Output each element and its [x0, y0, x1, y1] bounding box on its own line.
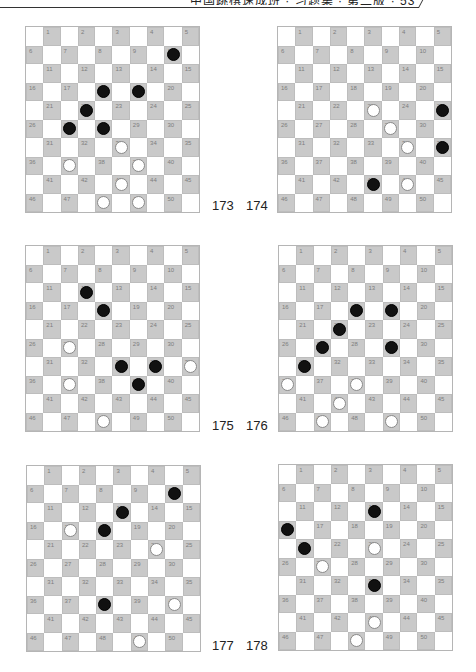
light-square: [348, 465, 365, 484]
light-square: [382, 138, 399, 157]
square-1: 1: [296, 465, 313, 484]
light-square: [364, 83, 381, 102]
square-number: 36: [281, 159, 288, 165]
light-square: [164, 64, 181, 83]
black-piece: [168, 487, 181, 500]
light-square: [26, 394, 43, 413]
square-45: 45: [435, 394, 452, 413]
square-number: 29: [134, 561, 141, 567]
square-number: 40: [167, 159, 174, 165]
square-number: 50: [168, 635, 175, 641]
square-46: 46: [278, 194, 295, 213]
square-44: 44: [400, 613, 417, 632]
square-number: 8: [350, 48, 353, 54]
square-50: 50: [164, 194, 181, 213]
square-14: 14: [148, 503, 165, 522]
light-square: [296, 376, 313, 395]
square-number: 45: [438, 396, 445, 402]
light-square: [331, 302, 348, 321]
square-number: 46: [282, 634, 289, 640]
white-piece: [384, 122, 397, 135]
square-13: 13: [364, 64, 381, 83]
light-square: [182, 339, 199, 358]
square-29: 29: [131, 559, 148, 578]
square-number: 50: [419, 196, 426, 202]
white-piece: [97, 196, 110, 209]
square-number: 17: [64, 85, 71, 91]
square-number: 5: [438, 248, 441, 254]
square-49: 49: [383, 632, 400, 651]
light-square: [26, 175, 43, 194]
square-number: 46: [30, 635, 37, 641]
square-number: 31: [298, 140, 305, 146]
square-30: 30: [164, 120, 181, 139]
light-square: [383, 539, 400, 558]
square-31: 31: [43, 138, 60, 157]
light-square: [182, 376, 199, 395]
square-number: 24: [402, 103, 409, 109]
square-26: 26: [27, 559, 44, 578]
square-40: 40: [417, 595, 434, 614]
square-number: 34: [150, 140, 157, 146]
square-number: 9: [133, 267, 136, 273]
square-44: 44: [147, 175, 164, 194]
light-square: [400, 265, 417, 284]
square-number: 31: [47, 579, 54, 585]
light-square: [399, 194, 416, 213]
square-7: 7: [62, 485, 79, 504]
square-number: 12: [333, 66, 340, 72]
light-square: [96, 503, 113, 522]
square-33: 33: [112, 138, 129, 157]
square-number: 14: [150, 285, 157, 291]
square-number: 31: [299, 578, 306, 584]
light-square: [365, 265, 382, 284]
square-1: 1: [43, 27, 60, 46]
light-square: [130, 27, 147, 46]
square-41: 41: [296, 613, 313, 632]
light-square: [112, 83, 129, 102]
square-number: 21: [46, 322, 53, 328]
square-17: 17: [62, 522, 79, 541]
light-square: [314, 357, 331, 376]
square-25: 25: [434, 101, 451, 120]
square-8: 8: [95, 46, 112, 65]
square-5: 5: [434, 27, 451, 46]
square-number: 24: [403, 541, 410, 547]
square-number: 3: [368, 248, 371, 254]
square-number: 12: [334, 504, 341, 510]
square-21: 21: [44, 540, 61, 559]
square-2: 2: [78, 246, 95, 265]
square-47: 47: [62, 633, 79, 652]
square-12: 12: [331, 283, 348, 302]
light-square: [164, 27, 181, 46]
square-number: 9: [134, 487, 137, 493]
light-square: [182, 83, 199, 102]
problem-label-175: 175: [212, 419, 234, 432]
square-number: 21: [299, 322, 306, 328]
square-number: 47: [64, 196, 71, 202]
light-square: [382, 101, 399, 120]
square-28: 28: [347, 120, 364, 139]
square-50: 50: [165, 633, 182, 652]
light-square: [95, 357, 112, 376]
square-number: 3: [115, 248, 118, 254]
square-number: 50: [420, 634, 427, 640]
square-23: 23: [365, 539, 382, 558]
square-number: 28: [99, 561, 106, 567]
square-48: 48: [95, 194, 112, 213]
running-header: 中国跳棋速成班 · 习题集 · 第二版 · 53: [190, 0, 415, 5]
light-square: [314, 502, 331, 521]
light-square: [61, 175, 78, 194]
square-number: 19: [386, 523, 393, 529]
square-number: 35: [438, 359, 445, 365]
light-square: [382, 27, 399, 46]
square-number: 4: [150, 29, 153, 35]
problem-label-176: 176: [246, 419, 268, 432]
light-square: [164, 138, 181, 157]
square-4: 4: [400, 246, 417, 265]
square-40: 40: [164, 376, 181, 395]
square-20: 20: [416, 83, 433, 102]
square-27: 27: [62, 559, 79, 578]
square-number: 19: [134, 524, 141, 530]
square-34: 34: [399, 138, 416, 157]
